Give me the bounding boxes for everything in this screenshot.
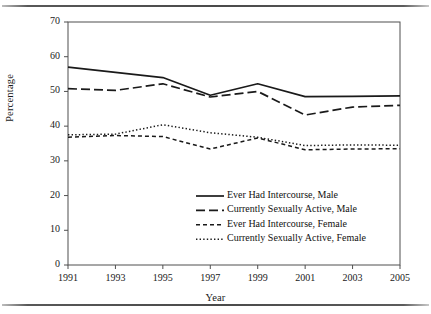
x-tick-label: 1997 <box>187 272 233 283</box>
x-tick-label: 2005 <box>377 272 423 283</box>
x-axis-title: Year <box>0 292 431 303</box>
series-line <box>68 84 400 115</box>
y-axis-ticks <box>64 22 68 265</box>
x-axis-ticks <box>68 265 400 269</box>
y-tick-label: 70 <box>20 15 60 26</box>
x-tick-label: 1999 <box>235 272 281 283</box>
y-tick-label: 20 <box>20 189 60 200</box>
legend-item-label: Ever Had Intercourse, Female <box>227 218 347 229</box>
legend-swatches <box>196 196 224 239</box>
y-tick-label: 50 <box>20 84 60 95</box>
line-chart-figure: Percentage Year 010203040506070 19911993… <box>0 0 431 314</box>
x-tick-label: 2003 <box>330 272 376 283</box>
y-tick-label: 60 <box>20 50 60 61</box>
y-tick-label: 0 <box>20 258 60 269</box>
x-tick-label: 1995 <box>140 272 186 283</box>
series-line <box>68 136 400 150</box>
y-tick-label: 10 <box>20 223 60 234</box>
y-tick-label: 30 <box>20 154 60 165</box>
series-line <box>68 67 400 97</box>
x-tick-label: 2001 <box>282 272 328 283</box>
legend-item-label: Currently Sexually Active, Male <box>227 203 357 214</box>
legend-item-label: Currently Sexually Active, Female <box>227 232 366 243</box>
x-tick-label: 1993 <box>92 272 138 283</box>
series-lines <box>68 67 400 150</box>
y-tick-label: 40 <box>20 119 60 130</box>
y-axis-title: Percentage <box>4 74 15 122</box>
plot-canvas <box>0 0 431 314</box>
x-tick-label: 1991 <box>45 272 91 283</box>
legend-item-label: Ever Had Intercourse, Male <box>227 189 338 200</box>
